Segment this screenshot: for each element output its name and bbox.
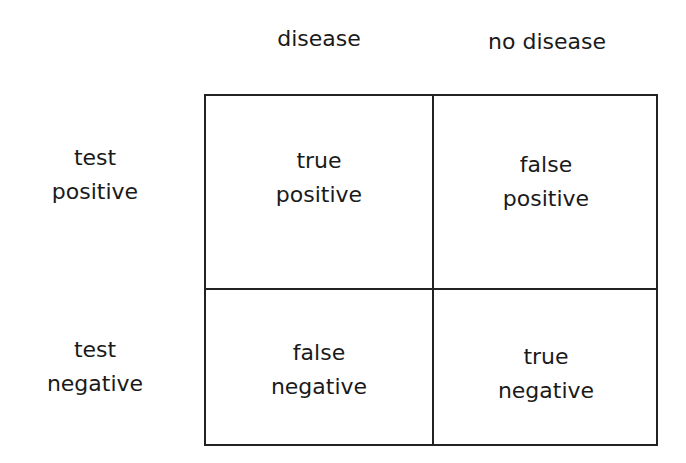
row-header-test-positive: test positive (20, 141, 170, 209)
contingency-table: true positive false positive false negat… (204, 94, 658, 446)
column-header-disease: disease (234, 22, 404, 56)
cell-true-negative: true negative (434, 340, 658, 408)
row-header-test-negative: test negative (20, 333, 170, 401)
column-header-no-disease: no disease (452, 25, 642, 59)
cell-false-negative: false negative (206, 336, 432, 404)
cell-true-positive: true positive (206, 144, 432, 212)
horizontal-divider (206, 288, 656, 290)
cell-false-positive: false positive (434, 148, 658, 216)
